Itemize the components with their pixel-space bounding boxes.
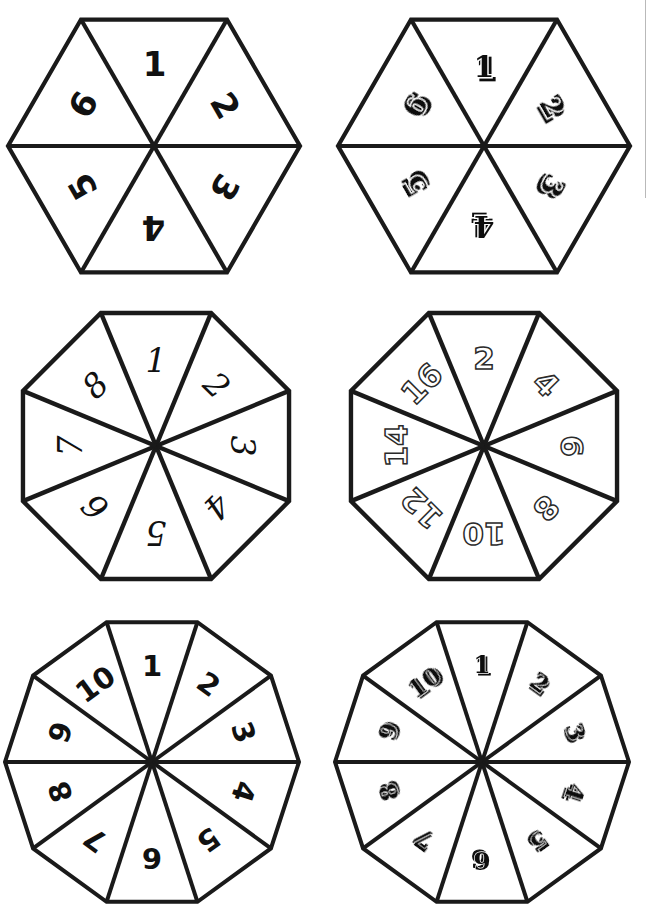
spinner-hexagon-1-6-block[interactable]: 123456: [2, 6, 306, 310]
sector-label-10: 10: [462, 516, 505, 552]
sector-label-6: 6: [473, 846, 490, 875]
sector-label-14: 14: [378, 424, 414, 467]
sector-label-2: 2: [473, 340, 495, 376]
sector-label-1: 1: [146, 341, 167, 380]
sector-label-5: 5: [146, 513, 167, 552]
sector-label-1: 1: [473, 650, 490, 679]
sector-label-4: 4: [474, 209, 495, 244]
sector-label-1: 1: [142, 649, 162, 683]
sector-label-3: 3: [223, 436, 262, 457]
sector-label-1: 1: [474, 49, 495, 84]
spinner-octagon-even-2-16-outline[interactable]: 246810121416: [336, 298, 636, 598]
sector-label-7: 7: [51, 436, 90, 457]
spinner-octagon-1-8-curly[interactable]: 12345678: [8, 298, 308, 598]
sector-label-6: 6: [142, 841, 162, 875]
spinner-hexagon-1-6-shadow[interactable]: 123456: [330, 6, 634, 310]
worksheet-page: 1234561234561234567824681012141612345678…: [0, 0, 652, 922]
sector-label-6: 6: [554, 435, 590, 457]
spinner-decagon-1-10-plain[interactable]: 12345678910: [2, 612, 302, 912]
sector-label-1: 1: [143, 44, 166, 84]
spinner-decagon-1-10-gothic[interactable]: 12345678910: [332, 612, 632, 912]
scan-edge-line-artifact: [645, 0, 646, 198]
sector-label-4: 4: [142, 208, 165, 248]
